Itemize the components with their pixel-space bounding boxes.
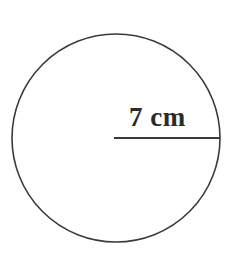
diagram-canvas <box>0 0 229 260</box>
circle-diagram: 7 cm <box>0 0 229 260</box>
radius-label: 7 cm <box>129 104 186 131</box>
